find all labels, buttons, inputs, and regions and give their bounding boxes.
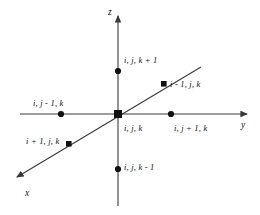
node-label-left: i, j - 1, k	[33, 99, 64, 108]
node-label-back: i - 1, j, k	[170, 80, 201, 89]
x-axis-label: x	[25, 189, 29, 199]
node-dot-front	[66, 141, 72, 147]
node-dot-center	[114, 110, 122, 118]
node-label-up: i, j, k + 1	[124, 56, 157, 65]
y-axis-label: y	[241, 121, 245, 131]
stencil-diagram-figure: z y x i, j, k + 1 i, j, k i, j, k - 1 i,…	[0, 0, 260, 215]
node-dot-down	[115, 166, 121, 172]
node-dot-right	[168, 111, 174, 117]
node-label-front: i + 1, j, k	[26, 137, 59, 146]
node-label-center: i, j, k	[124, 124, 142, 133]
node-dot-up	[115, 68, 121, 74]
node-label-right: i, j + 1, k	[174, 124, 207, 133]
z-axis-label: z	[108, 8, 112, 18]
node-dot-left	[58, 111, 64, 117]
node-label-down: i, j, k - 1	[124, 163, 155, 172]
node-dot-back	[161, 81, 167, 87]
